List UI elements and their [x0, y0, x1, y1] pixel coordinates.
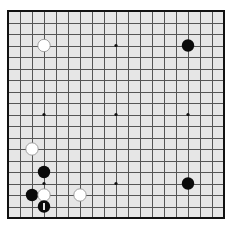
white-stone[interactable] — [38, 39, 50, 51]
star-point-icon — [42, 182, 45, 185]
white-stone-icon — [38, 189, 50, 201]
black-stone-icon — [26, 189, 38, 201]
star-point-icon — [114, 44, 117, 47]
star-point-icon — [114, 182, 117, 185]
black-stone[interactable] — [38, 200, 50, 212]
white-stone[interactable] — [26, 143, 38, 155]
white-stone-icon — [74, 189, 86, 201]
black-stone[interactable] — [182, 39, 194, 51]
star-point-icon — [42, 113, 45, 116]
go-board[interactable] — [0, 0, 232, 227]
black-stone-icon — [182, 39, 194, 51]
black-stone-icon — [38, 166, 50, 178]
star-point-icon — [186, 113, 189, 116]
white-stone[interactable] — [38, 189, 50, 201]
black-stone-icon — [182, 177, 194, 189]
white-stone-icon — [38, 39, 50, 51]
star-point-icon — [114, 113, 117, 116]
last-move-marker-icon — [43, 203, 45, 210]
black-stone[interactable] — [38, 166, 50, 178]
black-stone[interactable] — [182, 177, 194, 189]
white-stone[interactable] — [74, 189, 86, 201]
black-stone[interactable] — [26, 189, 38, 201]
white-stone-icon — [26, 143, 38, 155]
